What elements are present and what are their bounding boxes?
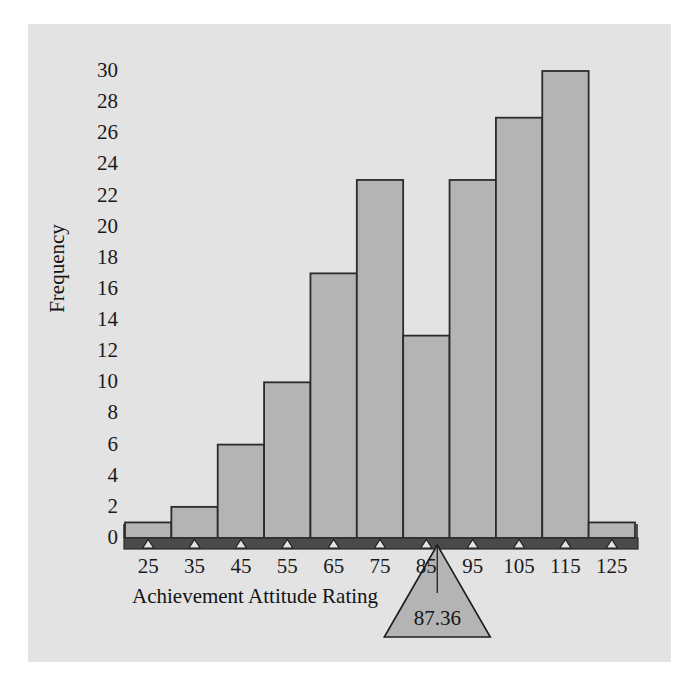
y-axis-tick-label: 16 bbox=[78, 278, 118, 299]
histogram-bar bbox=[542, 71, 588, 538]
x-axis-title: Achievement Attitude Rating bbox=[132, 584, 378, 609]
histogram-bar bbox=[264, 382, 310, 538]
y-axis-tick-label: 6 bbox=[78, 434, 118, 455]
y-axis-tick-label: 8 bbox=[78, 402, 118, 423]
histogram-figure: 024681012141618202224262830 253545556575… bbox=[0, 0, 698, 682]
y-axis-tick-label: 30 bbox=[78, 60, 118, 81]
histogram-bar bbox=[310, 273, 356, 538]
mean-value-label: 87.36 bbox=[377, 606, 497, 631]
y-axis-tick-label: 0 bbox=[78, 527, 118, 548]
y-axis-tick-label: 18 bbox=[78, 247, 118, 268]
histogram-bar bbox=[218, 445, 264, 538]
x-axis-tick-label: 125 bbox=[582, 556, 642, 577]
y-axis-tick-label: 10 bbox=[78, 371, 118, 392]
y-axis-title: Frequency bbox=[45, 209, 70, 329]
y-axis-tick-label: 4 bbox=[78, 465, 118, 486]
y-axis-tick-label: 22 bbox=[78, 185, 118, 206]
histogram-bar bbox=[450, 180, 496, 538]
histogram-bars bbox=[125, 71, 635, 538]
y-axis-tick-label: 28 bbox=[78, 91, 118, 112]
y-axis-tick-label: 14 bbox=[78, 309, 118, 330]
histogram-bar bbox=[171, 507, 217, 538]
y-axis-tick-label: 24 bbox=[78, 153, 118, 174]
y-axis-tick-label: 20 bbox=[78, 216, 118, 237]
histogram-bar bbox=[496, 118, 542, 538]
histogram-bar bbox=[125, 522, 171, 538]
histogram-bar bbox=[403, 336, 449, 538]
histogram-bar bbox=[589, 522, 635, 538]
y-axis-tick-label: 26 bbox=[78, 122, 118, 143]
y-axis-tick-label: 2 bbox=[78, 496, 118, 517]
y-axis-tick-label: 12 bbox=[78, 340, 118, 361]
histogram-bar bbox=[357, 180, 403, 538]
